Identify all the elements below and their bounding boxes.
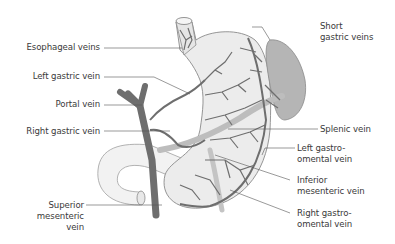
left-gastric-vein-vessel — [150, 80, 205, 120]
portal-vein-branch-right — [140, 86, 145, 106]
label-left-gastro-omental-vein: Left gastro- omental vein — [297, 143, 352, 165]
label-esophageal-veins: Esophageal veins — [20, 42, 100, 53]
duodenum-opening — [137, 191, 145, 205]
label-short-gastric-veins: Short gastric veins — [320, 21, 373, 43]
label-portal-vein: Portal vein — [20, 99, 100, 110]
label-right-gastric-vein: Right gastric vein — [10, 126, 100, 137]
label-splenic-vein: Splenic vein — [320, 124, 371, 135]
esophagus-opening — [176, 18, 192, 25]
spleen — [266, 40, 306, 120]
label-inferior-mesenteric-vein: Inferior mesenteric vein — [297, 175, 365, 197]
label-superior-mesenteric-vein: Superior mesenteric vein — [20, 200, 84, 233]
label-left-gastric-vein: Left gastric vein — [20, 71, 100, 82]
label-right-gastro-omental-vein: Right gastro- omental vein — [297, 208, 352, 230]
